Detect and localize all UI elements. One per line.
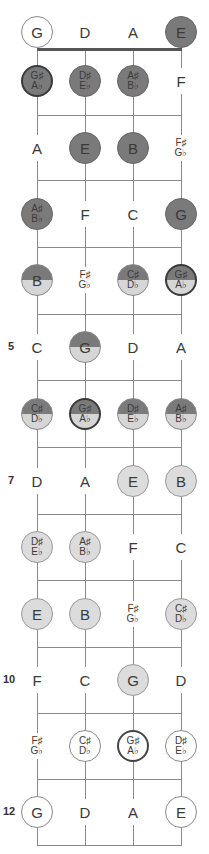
fret-line-2 — [37, 180, 182, 181]
note-fret11-string-e-dsharp-eflat: D♯E♭ — [165, 730, 197, 762]
note-fret12-string-e-e: E — [165, 796, 197, 828]
note-label: F — [80, 207, 89, 222]
note-label: F — [32, 673, 41, 688]
note-label: E — [80, 141, 90, 156]
note-label: C — [128, 207, 139, 222]
note-enharmonic-label: G♭ — [31, 746, 44, 756]
note-label: F — [128, 540, 137, 555]
note-enharmonic-label: G♭ — [175, 148, 188, 158]
note-fret5-string-d-g: G — [69, 331, 101, 363]
note-fret0-string-d-d: D — [72, 19, 98, 45]
note-fret3-string-e-g: G — [165, 198, 197, 230]
note-fret9-string-e-csharp-dflat: C♯D♭ — [165, 598, 197, 630]
note-enharmonic-label: A♭ — [79, 414, 91, 424]
note-fret2-string-g-a: A — [24, 135, 50, 161]
note-label: C — [32, 340, 43, 355]
note-enharmonic-label: E♭ — [127, 414, 139, 424]
note-fret9-string-g-e: E — [21, 598, 53, 630]
note-fret11-string-d-csharp-dflat: C♯D♭ — [69, 730, 101, 762]
note-fret7-string-d-a: A — [72, 468, 98, 494]
note-enharmonic-label: G♭ — [127, 614, 140, 624]
note-label: G — [79, 340, 91, 355]
note-fret4-string-e-gsharp-aflat: G♯A♭ — [165, 264, 197, 296]
note-label: D — [176, 673, 187, 688]
note-fret7-string-g-d: D — [24, 468, 50, 494]
note-fret3-string-g-asharp-bflat: A♯B♭ — [21, 198, 53, 230]
note-enharmonic-label: A♭ — [31, 81, 43, 91]
fret-line-11 — [37, 779, 182, 780]
note-enharmonic-label: D♭ — [79, 746, 91, 756]
fret-line-9 — [37, 647, 182, 648]
note-fret7-string-e-b: B — [165, 465, 197, 497]
fret-line-8 — [37, 580, 182, 581]
fret-line-6 — [37, 447, 182, 448]
note-fret8-string-g-dsharp-eflat: D♯E♭ — [21, 531, 53, 563]
fret-line-7 — [37, 514, 182, 515]
note-label: G — [31, 25, 43, 40]
note-enharmonic-label: D♭ — [31, 414, 43, 424]
note-label: A — [128, 25, 138, 40]
note-fret7-string-a-e: E — [117, 465, 149, 497]
note-label: B — [128, 141, 138, 156]
note-fret12-string-d-d: D — [72, 799, 98, 825]
note-label: D — [32, 474, 43, 489]
note-enharmonic-label: D♭ — [175, 614, 187, 624]
note-label: G — [127, 673, 139, 688]
note-label: G — [31, 805, 43, 820]
note-fret9-string-a-fsharp-gflat: F♯G♭ — [120, 601, 146, 627]
note-fret11-string-a-gsharp-aflat: G♯A♭ — [117, 730, 149, 762]
note-enharmonic-label: B♭ — [127, 81, 139, 91]
note-enharmonic-label: E♭ — [175, 746, 187, 756]
fret-line-3 — [37, 247, 182, 248]
note-enharmonic-label: E♭ — [31, 547, 43, 557]
note-enharmonic-label: D♭ — [127, 280, 139, 290]
note-fret6-string-d-gsharp-aflat: G♯A♭ — [69, 398, 101, 430]
note-fret4-string-d-fsharp-gflat: F♯G♭ — [72, 267, 98, 293]
note-label: B — [32, 273, 42, 288]
note-label: B — [176, 474, 186, 489]
note-label: A — [32, 141, 42, 156]
note-enharmonic-label: B♭ — [79, 547, 91, 557]
fret-line-4 — [37, 314, 182, 315]
note-label: A — [80, 474, 90, 489]
fretboard-diagram: 571012GDAEG♯A♭D♯E♭A♯B♭FAEBF♯G♭A♯B♭FCGBF♯… — [0, 0, 209, 854]
note-fret12-string-g-g: G — [21, 796, 53, 828]
fret-number-10: 10 — [3, 673, 23, 685]
note-fret0-string-a-a: A — [120, 19, 146, 45]
note-fret10-string-e-d: D — [168, 667, 194, 693]
note-fret6-string-e-asharp-bflat: A♯B♭ — [165, 398, 197, 430]
note-fret4-string-g-b: B — [21, 264, 53, 296]
note-enharmonic-label: E♭ — [79, 81, 91, 91]
fret-line-12 — [37, 845, 182, 846]
fret-line-5 — [37, 380, 182, 381]
note-fret11-string-g-fsharp-gflat: F♯G♭ — [24, 733, 50, 759]
note-fret3-string-a-c: C — [120, 201, 146, 227]
note-label: A — [176, 340, 186, 355]
note-fret1-string-e-f: F — [168, 68, 194, 94]
note-fret6-string-a-dsharp-eflat: D♯E♭ — [117, 398, 149, 430]
fret-number-12: 12 — [3, 805, 23, 817]
note-fret1-string-a-asharp-bflat: A♯B♭ — [117, 65, 149, 97]
note-fret2-string-d-e: E — [69, 132, 101, 164]
note-enharmonic-label: G♭ — [79, 280, 92, 290]
note-enharmonic-label: B♭ — [31, 214, 43, 224]
note-label: E — [128, 474, 138, 489]
note-fret6-string-g-csharp-dflat: C♯D♭ — [21, 398, 53, 430]
nut — [37, 48, 182, 51]
note-fret0-string-e-e: E — [165, 16, 197, 48]
note-enharmonic-label: A♭ — [127, 746, 139, 756]
note-label: E — [32, 607, 42, 622]
note-fret2-string-a-b: B — [117, 132, 149, 164]
note-label: D — [80, 805, 91, 820]
note-fret5-string-a-d: D — [120, 334, 146, 360]
note-fret10-string-a-g: G — [117, 664, 149, 696]
note-label: A — [128, 805, 138, 820]
note-label: F — [176, 74, 185, 89]
note-label: E — [176, 805, 186, 820]
note-label: D — [80, 25, 91, 40]
note-label: D — [128, 340, 139, 355]
note-fret10-string-g-f: F — [24, 667, 50, 693]
fret-line-1 — [37, 115, 182, 116]
note-fret10-string-d-c: C — [72, 667, 98, 693]
note-fret5-string-g-c: C — [24, 334, 50, 360]
